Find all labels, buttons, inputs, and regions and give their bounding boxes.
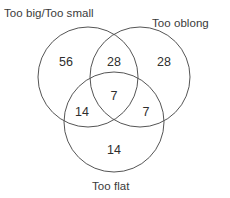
region-count-big-small-and-oblong: 28: [107, 55, 121, 69]
region-count-big-small-and-flat: 14: [75, 105, 89, 119]
region-count-oblong-and-flat: 7: [143, 105, 150, 119]
venn-circle-too-oblong: [90, 27, 190, 127]
set-label-too-oblong: Too oblong: [152, 17, 209, 30]
region-count-all-three: 7: [111, 89, 118, 103]
region-count-only-oblong: 28: [157, 55, 171, 69]
venn-diagram: Too big/Too small Too oblong Too flat 56…: [0, 0, 230, 198]
set-label-too-big-too-small: Too big/Too small: [4, 7, 94, 20]
venn-circle-too-flat: [64, 72, 164, 172]
set-label-too-flat: Too flat: [92, 180, 129, 193]
region-count-only-flat: 14: [107, 143, 121, 157]
region-count-only-big-small: 56: [59, 55, 73, 69]
